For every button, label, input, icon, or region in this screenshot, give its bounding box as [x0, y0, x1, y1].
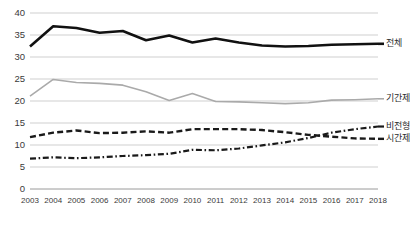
- series-line-3: [30, 127, 378, 159]
- x-axis-tick: 2018: [369, 196, 387, 205]
- x-axis-tick: 2011: [207, 196, 225, 205]
- x-axis-tick: 2013: [253, 196, 271, 205]
- x-axis-tick: 2016: [323, 196, 341, 205]
- y-axis-tick: 20: [14, 95, 25, 106]
- x-axis-tick: 2005: [68, 196, 86, 205]
- x-axis-tick: 2008: [137, 196, 155, 205]
- y-axis-tick: 15: [14, 117, 25, 128]
- legend-line-samples: [378, 44, 384, 139]
- x-axis-tick: 2006: [91, 196, 109, 205]
- chart-canvas: 0510152025303540 20032004200520062007200…: [0, 0, 412, 225]
- data-series-group: [30, 26, 378, 158]
- x-axis-tick: 2014: [276, 196, 294, 205]
- y-axis-tick: 25: [14, 73, 25, 84]
- y-axis-tick: 0: [20, 183, 25, 194]
- legend-label-gigangje: 기간제: [386, 93, 410, 103]
- y-axis-tick: 35: [14, 29, 25, 40]
- legend-label-bijeonhyeong: 비전형: [386, 121, 410, 131]
- x-axis-tick: 2017: [346, 196, 364, 205]
- line-chart: 0510152025303540 20032004200520062007200…: [0, 0, 412, 225]
- x-axis-tick: 2010: [184, 196, 202, 205]
- legend-label-jeonche: 전체: [386, 38, 402, 48]
- y-axis-tick: 30: [14, 51, 25, 62]
- series-line-1: [30, 79, 378, 103]
- series-line-0: [30, 26, 378, 46]
- legend-label-siganje: 시간제: [386, 133, 410, 143]
- y-axis-tick: 10: [14, 139, 25, 150]
- x-axis-tick: 2004: [44, 196, 62, 205]
- x-axis-tick: 2007: [114, 196, 132, 205]
- x-axis-tick-labels: 2003200420052006200720082009201020112012…: [21, 196, 387, 205]
- x-axis-tick: 2003: [21, 196, 39, 205]
- x-axis-tick: 2015: [300, 196, 318, 205]
- y-axis-tick: 5: [20, 161, 25, 172]
- x-axis-tick: 2009: [160, 196, 178, 205]
- x-axis-tick: 2012: [230, 196, 248, 205]
- y-axis-tick: 40: [14, 7, 25, 18]
- y-axis-tick-labels: 0510152025303540: [14, 7, 25, 194]
